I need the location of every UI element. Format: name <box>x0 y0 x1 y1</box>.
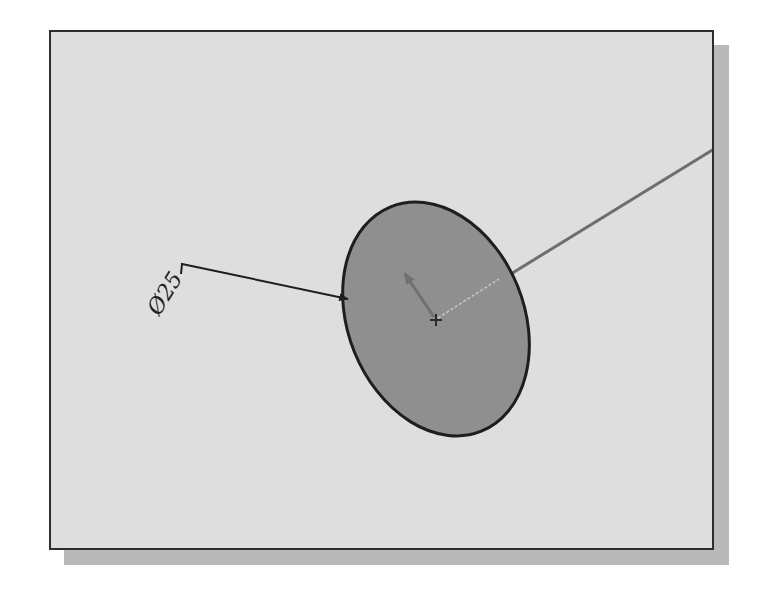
diameter-dimension-label[interactable]: Ø25 <box>141 267 187 320</box>
graphics-viewport[interactable]: Ø25 <box>49 30 714 550</box>
dimension-leader-line[interactable] <box>181 264 348 299</box>
